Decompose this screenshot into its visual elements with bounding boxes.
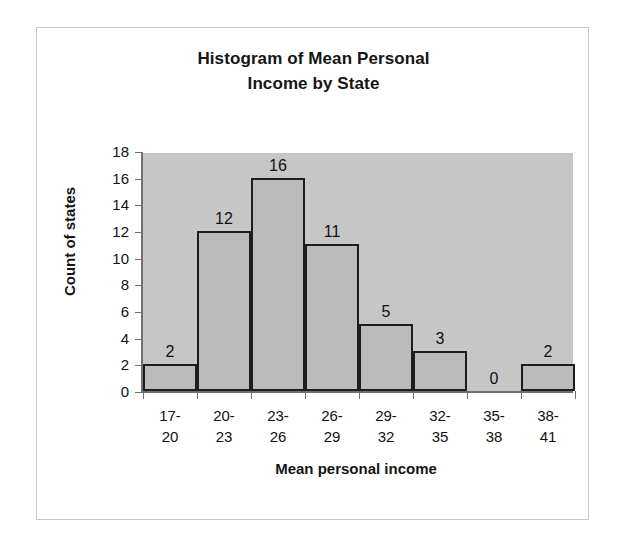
bar-value-label: 2 xyxy=(544,343,553,361)
x-axis-category-label-line-1: 23- xyxy=(267,407,289,424)
histogram-bar xyxy=(251,178,305,391)
x-axis-tick-mark xyxy=(575,391,576,399)
bar-value-label: 11 xyxy=(324,223,341,241)
x-axis-category-label: 38-41 xyxy=(537,405,559,447)
x-axis-category-label-line-2: 38 xyxy=(483,426,505,447)
y-axis-tick-label: 8 xyxy=(121,276,129,293)
y-axis-tick-label: 14 xyxy=(112,196,129,213)
y-axis-tick-mark xyxy=(135,205,143,206)
bar-value-label: 16 xyxy=(269,157,287,175)
x-axis-category-label-line-1: 38- xyxy=(537,407,559,424)
y-axis-tick-mark xyxy=(135,312,143,313)
x-axis-category-label-line-1: 29- xyxy=(375,407,397,424)
bar-value-label: 2 xyxy=(166,343,175,361)
y-axis-tick-mark xyxy=(135,285,143,286)
x-axis-category-label-line-1: 20- xyxy=(213,407,235,424)
x-axis-category-label-line-2: 35 xyxy=(429,426,451,447)
chart-title-line-1: Histogram of Mean Personal xyxy=(37,46,590,71)
x-axis-tick-mark xyxy=(251,391,252,399)
x-axis-category-label: 20-23 xyxy=(213,405,235,447)
bar-value-label: 5 xyxy=(382,303,391,321)
x-axis-category-label-line-1: 35- xyxy=(483,407,505,424)
x-axis-category-label: 23-26 xyxy=(267,405,289,447)
x-axis-category-label-line-2: 29 xyxy=(321,426,343,447)
chart-title-line-2: Income by State xyxy=(37,71,590,96)
x-axis-category-label-line-2: 26 xyxy=(267,426,289,447)
bar-value-label: 12 xyxy=(215,210,233,228)
x-axis-category-label: 17-20 xyxy=(159,405,181,447)
histogram-bar xyxy=(413,351,467,391)
histogram-bar xyxy=(143,364,197,391)
x-axis-category-label-line-1: 32- xyxy=(429,407,451,424)
y-axis-tick-mark xyxy=(135,365,143,366)
x-axis-category-label: 29-32 xyxy=(375,405,397,447)
bar-value-label: 3 xyxy=(436,330,445,348)
y-axis-tick-label: 12 xyxy=(112,223,129,240)
y-axis-tick-mark xyxy=(135,179,143,180)
x-axis-tick-mark xyxy=(521,391,522,399)
x-axis-category-label-line-2: 41 xyxy=(537,426,559,447)
x-axis-category-label: 32-35 xyxy=(429,405,451,447)
histogram-bar xyxy=(359,324,413,391)
bar-value-label: 0 xyxy=(490,370,499,388)
histogram-bar xyxy=(305,244,359,391)
y-axis-tick-label: 4 xyxy=(121,330,129,347)
histogram-bar xyxy=(521,364,575,391)
y-axis-tick-label: 0 xyxy=(121,383,129,400)
x-axis-title: Mean personal income xyxy=(141,460,571,477)
x-axis-category-label: 35-38 xyxy=(483,405,505,447)
y-axis-tick-mark xyxy=(135,392,143,393)
y-axis-tick-mark xyxy=(135,339,143,340)
y-axis-tick-label: 2 xyxy=(121,356,129,373)
y-axis-title: Count of states xyxy=(61,162,78,322)
x-axis-tick-mark xyxy=(305,391,306,399)
x-axis-category-label-line-1: 17- xyxy=(159,407,181,424)
x-axis-tick-mark xyxy=(359,391,360,399)
y-axis-tick-mark xyxy=(135,152,143,153)
x-axis-category-label: 26-29 xyxy=(321,405,343,447)
x-axis-tick-mark xyxy=(413,391,414,399)
y-axis-tick-label: 16 xyxy=(112,170,129,187)
histogram-bar xyxy=(197,231,251,391)
y-axis-tick-label: 6 xyxy=(121,303,129,320)
y-axis-tick-label: 18 xyxy=(112,143,129,160)
plot-area: 024681012141618217-201220-231623-261126-… xyxy=(141,153,573,393)
x-axis-tick-mark xyxy=(197,391,198,399)
chart-title: Histogram of Mean Personal Income by Sta… xyxy=(37,46,590,96)
x-axis-category-label-line-2: 23 xyxy=(213,426,235,447)
x-axis-tick-mark xyxy=(467,391,468,399)
x-axis-category-label-line-2: 20 xyxy=(159,426,181,447)
x-axis-tick-mark xyxy=(143,391,144,399)
y-axis-tick-mark xyxy=(135,259,143,260)
y-axis-tick-mark xyxy=(135,232,143,233)
x-axis-category-label-line-1: 26- xyxy=(321,407,343,424)
x-axis-category-label-line-2: 32 xyxy=(375,426,397,447)
chart-frame: Histogram of Mean Personal Income by Sta… xyxy=(36,27,589,520)
y-axis-tick-label: 10 xyxy=(112,250,129,267)
